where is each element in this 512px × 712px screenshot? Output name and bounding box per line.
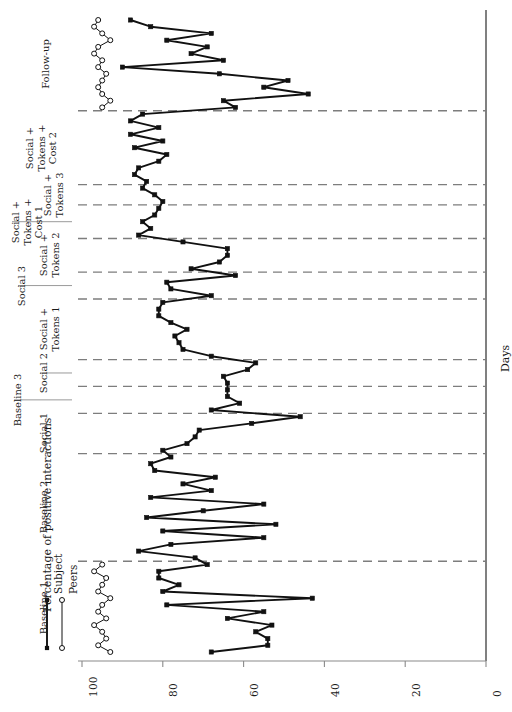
x-axis-title: Days [499, 345, 512, 372]
y-tick-label-40: 40 [329, 683, 341, 697]
y-axis-ticks [82, 661, 486, 667]
y-tick-label-100: 100 [87, 676, 99, 697]
phase-label-line: Social + [24, 124, 36, 171]
phase-label-line: Tokens 1 [50, 307, 62, 352]
phase-label-line: Social + [42, 172, 54, 217]
phase-label-line: Tokens 3 [54, 172, 66, 217]
phase-label-line: Tokens + [22, 198, 34, 245]
phase-label-9: Social +Tokens 3 [42, 172, 65, 217]
y-tick-label-0: 0 [491, 690, 503, 697]
phase-label-line: Baseline 3 [12, 374, 24, 427]
y-tick-label-60: 60 [248, 683, 260, 697]
phase-label-5: Social +Tokens 1 [38, 307, 61, 352]
phase-label-line: Social 2 [38, 353, 50, 393]
y-tick-label-20: 20 [410, 683, 422, 697]
phase-label-line: Social 3 [16, 265, 28, 305]
y-tick-label-80: 80 [167, 683, 179, 697]
phase-divider-lines [78, 111, 486, 561]
phase-label-line: Social + [10, 198, 22, 245]
y-axis-title: Percentage of positive interactions [41, 418, 54, 612]
phase-label-line: Tokens 2 [50, 233, 62, 278]
phase-label-8: Social +Tokens +Cost 1 [10, 198, 45, 245]
phase-label-4: Social 2 [38, 353, 50, 393]
phase-label-10: Social +Tokens +Cost 2 [24, 124, 59, 171]
series-subject [120, 18, 314, 654]
legend-label-peers: Peers [67, 565, 79, 594]
phase-label-line: Tokens + [36, 124, 48, 171]
series-peers [92, 18, 113, 655]
phase-label-3: Baseline 3 [12, 374, 24, 427]
phase-label-11: Follow-up [40, 39, 52, 89]
phase-label-6: Social 3 [16, 265, 28, 305]
phase-label-line: Cost 2 [47, 124, 59, 171]
phase-label-line: Social + [38, 307, 50, 352]
phase-label-line: Follow-up [40, 39, 52, 89]
